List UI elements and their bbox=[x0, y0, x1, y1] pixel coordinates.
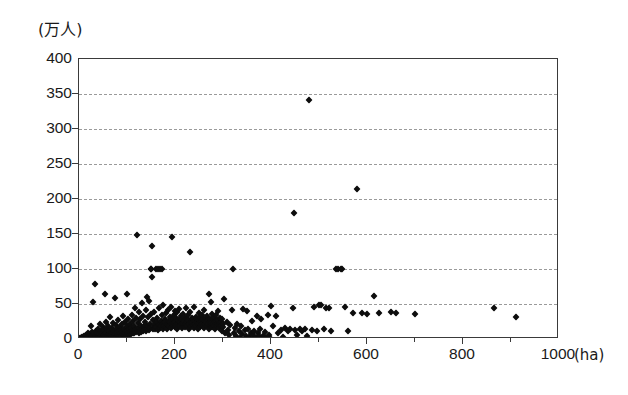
data-point bbox=[99, 333, 106, 337]
y-axis-unit-label: (万人) bbox=[38, 16, 82, 40]
data-point bbox=[139, 326, 146, 333]
data-point bbox=[266, 334, 273, 337]
data-point bbox=[196, 324, 203, 331]
data-point bbox=[190, 321, 197, 328]
data-point bbox=[95, 325, 102, 332]
data-point bbox=[108, 331, 115, 337]
data-point bbox=[181, 321, 188, 328]
data-point bbox=[363, 310, 370, 317]
data-point bbox=[146, 297, 153, 304]
data-point bbox=[214, 323, 221, 330]
data-point bbox=[87, 333, 94, 337]
data-point bbox=[290, 209, 297, 216]
data-point bbox=[291, 326, 298, 333]
data-point bbox=[146, 324, 153, 331]
data-point bbox=[100, 333, 107, 337]
data-point bbox=[91, 329, 98, 336]
data-point bbox=[247, 329, 254, 336]
data-point bbox=[411, 310, 418, 317]
data-point bbox=[136, 324, 143, 331]
data-point bbox=[250, 331, 257, 337]
data-point bbox=[89, 333, 96, 337]
data-point bbox=[161, 322, 168, 329]
data-point bbox=[130, 317, 137, 324]
data-point bbox=[137, 316, 144, 323]
gridline-y-100 bbox=[79, 269, 557, 270]
data-point bbox=[118, 321, 125, 328]
data-point bbox=[92, 280, 99, 287]
data-point bbox=[102, 333, 109, 337]
data-point bbox=[287, 326, 294, 333]
data-point bbox=[145, 323, 152, 330]
data-point bbox=[192, 320, 199, 327]
data-point bbox=[109, 333, 116, 337]
x-tick-mark-400 bbox=[270, 338, 271, 344]
data-point bbox=[375, 310, 382, 317]
data-point bbox=[242, 332, 249, 337]
data-point bbox=[320, 326, 327, 333]
y-tick-label-50: 50 bbox=[55, 295, 72, 311]
data-point bbox=[199, 320, 206, 327]
data-point bbox=[160, 319, 167, 326]
data-point bbox=[264, 311, 271, 318]
data-point bbox=[209, 310, 216, 317]
data-point bbox=[211, 314, 218, 321]
data-point bbox=[258, 315, 265, 322]
data-point bbox=[235, 328, 242, 335]
data-point bbox=[199, 316, 206, 323]
data-point bbox=[296, 325, 303, 332]
data-point bbox=[114, 331, 121, 337]
data-point bbox=[152, 325, 159, 332]
data-point bbox=[206, 318, 213, 325]
data-point bbox=[129, 329, 136, 336]
data-point bbox=[120, 325, 127, 332]
data-point bbox=[95, 333, 102, 337]
data-point bbox=[134, 319, 141, 326]
data-point bbox=[162, 324, 169, 331]
gridline-y-300 bbox=[79, 129, 557, 130]
data-point bbox=[349, 310, 356, 317]
gridline-y-350 bbox=[79, 94, 557, 95]
data-point bbox=[86, 335, 93, 337]
data-point bbox=[125, 326, 132, 333]
y-tick-label-300: 300 bbox=[46, 120, 72, 136]
data-point bbox=[140, 312, 147, 319]
data-point bbox=[153, 324, 160, 331]
data-point bbox=[111, 295, 118, 302]
data-point bbox=[113, 333, 120, 337]
data-point bbox=[153, 314, 160, 321]
data-point bbox=[115, 328, 122, 335]
data-point bbox=[126, 331, 133, 337]
data-point bbox=[223, 319, 230, 326]
y-tick-label-350: 350 bbox=[46, 85, 72, 101]
data-point bbox=[220, 296, 227, 303]
data-point bbox=[144, 314, 151, 321]
data-point bbox=[110, 330, 117, 337]
data-point bbox=[193, 323, 200, 330]
data-point bbox=[147, 310, 154, 317]
data-point bbox=[392, 310, 399, 317]
data-point bbox=[187, 318, 194, 325]
data-point bbox=[207, 321, 214, 328]
data-point bbox=[101, 291, 108, 298]
data-point bbox=[92, 332, 99, 337]
x-minor-tick-mark-300 bbox=[222, 338, 223, 342]
data-point bbox=[260, 333, 267, 337]
data-point bbox=[154, 319, 161, 326]
data-point bbox=[150, 317, 157, 324]
data-point bbox=[299, 327, 306, 334]
data-point bbox=[156, 324, 163, 331]
data-point bbox=[185, 321, 192, 328]
y-tick-mark-300 bbox=[72, 128, 78, 129]
data-point bbox=[127, 328, 134, 335]
data-point bbox=[138, 328, 145, 335]
data-point bbox=[117, 330, 124, 337]
data-point bbox=[172, 314, 179, 321]
data-point bbox=[104, 326, 111, 333]
data-point bbox=[294, 331, 301, 337]
data-point bbox=[251, 327, 258, 334]
data-point bbox=[277, 326, 284, 333]
data-point bbox=[96, 331, 103, 337]
gridline-y-50 bbox=[79, 304, 557, 305]
data-point bbox=[134, 232, 141, 239]
